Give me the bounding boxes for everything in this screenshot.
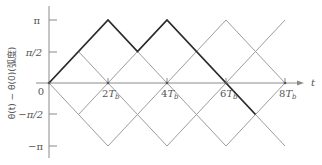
x-label-2tb: 2Tb [102, 88, 120, 101]
trellis-line [138, 52, 227, 147]
trellis-line [256, 115, 286, 147]
trellis-line [79, 52, 168, 147]
msk-phase-trellis-diagram: π π/2 0 −π/2 −π 2Tb 4Tb 6Tb 8Tb t θ(t) −… [0, 0, 322, 165]
axes [36, 6, 304, 158]
x-axis-label: t [311, 77, 316, 88]
y-label-neg-pi: −π [28, 141, 43, 152]
y-label-pi-half: π/2 [25, 47, 42, 58]
y-label-neg-pi-half: −π/2 [18, 109, 43, 120]
y-label-pi: π [33, 15, 40, 26]
y-axis-label: θ(t) − θ(0)(弧度) [6, 47, 17, 120]
x-label-6tb: 6Tb [220, 88, 238, 101]
x-label-8tb: 8Tb [279, 88, 297, 101]
y-label-origin: 0 [38, 86, 44, 97]
x-label-4tb: 4Tb [161, 88, 179, 101]
x-axis-arrow-icon [297, 81, 304, 86]
